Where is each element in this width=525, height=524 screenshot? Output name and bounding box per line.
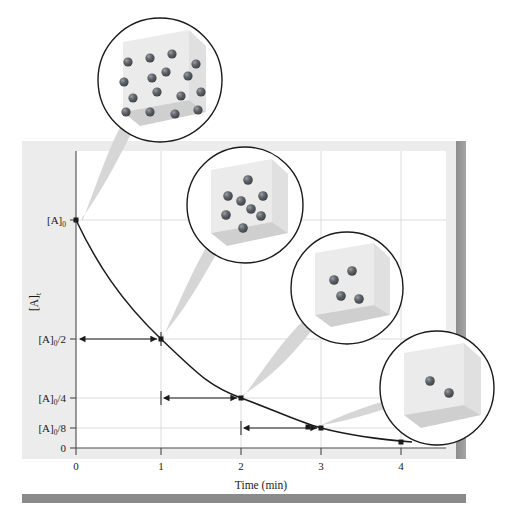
callout-t1 [187,147,303,263]
callout-t0 [98,18,222,142]
x-axis-title: Time (min) [235,479,287,492]
figure-root: [A]0 [A]0/2 [A]0/4 [A]0/8 0 [A]t 0 1 2 3… [0,0,525,524]
molecule-box-t1 [211,159,288,246]
molecule-box-t3 [404,343,481,428]
callout-t3 [380,331,494,445]
molecule-box-t2 [315,243,390,327]
x-tick-label-2: 2 [238,460,244,472]
first-order-halflife-figure: [A]0 [A]0/2 [A]0/4 [A]0/8 0 [A]t 0 1 2 3… [0,0,525,524]
bottom-accent-bar [22,494,466,503]
marker-t0 [74,218,79,223]
marker-t3 [319,426,324,431]
marker-t4 [399,440,404,445]
x-tick-label-4: 4 [398,460,404,472]
marker-t285 [306,425,311,430]
x-tick-label-0: 0 [73,460,79,472]
molecule-box-t0 [123,30,206,126]
y-tick-label-zero: 0 [61,442,67,454]
marker-t2 [239,396,244,401]
x-tick-label-1: 1 [158,460,164,472]
x-tick-label-3: 3 [318,460,324,472]
callout-t2 [291,232,403,344]
